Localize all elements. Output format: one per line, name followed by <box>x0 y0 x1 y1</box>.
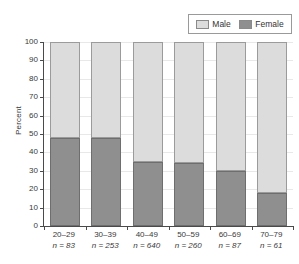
x-axis-labels: 20–29n = 8330–39n = 25340–49n = 64050–59… <box>43 229 292 251</box>
y-axis-tick-label: 20 <box>29 185 38 193</box>
bar-segment-female[interactable] <box>50 138 80 226</box>
bar-segment-female[interactable] <box>133 162 163 226</box>
legend-label-male: Male <box>212 20 230 29</box>
x-axis-tick <box>293 226 294 230</box>
y-axis-tick-label: 10 <box>29 204 38 212</box>
x-axis-category-label: 50–59 <box>168 229 210 240</box>
bar-segment-male[interactable] <box>91 42 121 138</box>
x-axis-sample-size-label: n = 87 <box>209 240 251 251</box>
legend-swatch-male-icon <box>196 20 209 29</box>
bar-segment-male[interactable] <box>133 42 163 162</box>
bar-slot <box>169 42 211 226</box>
y-axis-tick-label: 40 <box>29 148 38 156</box>
x-axis-label-group: 50–59n = 260 <box>168 229 210 251</box>
y-axis-tick-label: 80 <box>29 75 38 83</box>
plot-area: 0102030405060708090100 <box>43 42 293 227</box>
stacked-bar[interactable] <box>133 42 163 226</box>
y-axis-tick-label: 100 <box>25 38 38 46</box>
x-axis-label-group: 60–69n = 87 <box>209 229 251 251</box>
x-axis-label-group: 70–79n = 61 <box>251 229 293 251</box>
bar-segment-female[interactable] <box>257 193 287 226</box>
bar-slot <box>127 42 169 226</box>
legend-item-female: Female <box>239 20 283 29</box>
x-axis-sample-size-label: n = 640 <box>126 240 168 251</box>
x-axis-sample-size-label: n = 253 <box>85 240 127 251</box>
y-axis-label: Percent <box>14 91 23 151</box>
y-axis-tick-label: 60 <box>29 112 38 120</box>
legend-label-female: Female <box>255 20 283 29</box>
x-axis-category-label: 40–49 <box>126 229 168 240</box>
y-axis-tick-label: 90 <box>29 56 38 64</box>
bar-slot <box>44 42 86 226</box>
x-axis-label-group: 20–29n = 83 <box>43 229 85 251</box>
x-axis-category-label: 30–39 <box>85 229 127 240</box>
bar-segment-male[interactable] <box>257 42 287 193</box>
y-axis-tick-label: 0 <box>34 222 38 230</box>
legend-swatch-female-icon <box>239 20 252 29</box>
bar-segment-female[interactable] <box>91 138 121 226</box>
y-axis-tick-label: 70 <box>29 93 38 101</box>
legend-item-male: Male <box>196 20 230 29</box>
x-axis-label-group: 40–49n = 640 <box>126 229 168 251</box>
stacked-bar[interactable] <box>257 42 287 226</box>
bar-segment-male[interactable] <box>174 42 204 163</box>
bar-group <box>44 42 293 226</box>
bar-slot <box>210 42 252 226</box>
bar-segment-male[interactable] <box>50 42 80 138</box>
x-axis-category-label: 20–29 <box>43 229 85 240</box>
x-axis-category-label: 70–79 <box>251 229 293 240</box>
bar-slot <box>86 42 128 226</box>
x-axis-category-label: 60–69 <box>209 229 251 240</box>
x-axis-sample-size-label: n = 61 <box>251 240 293 251</box>
bar-segment-female[interactable] <box>174 163 204 226</box>
stacked-bar[interactable] <box>50 42 80 226</box>
chart-legend: Male Female <box>188 14 292 34</box>
x-axis-label-group: 30–39n = 253 <box>85 229 127 251</box>
bar-segment-female[interactable] <box>216 171 246 226</box>
stacked-bar[interactable] <box>91 42 121 226</box>
bar-slot <box>252 42 294 226</box>
y-axis-tick-label: 30 <box>29 167 38 175</box>
bar-segment-male[interactable] <box>216 42 246 171</box>
stacked-bar-chart: Male Female Percent 01020304050607080901… <box>0 0 299 264</box>
x-axis-sample-size-label: n = 83 <box>43 240 85 251</box>
x-axis-sample-size-label: n = 260 <box>168 240 210 251</box>
stacked-bar[interactable] <box>216 42 246 226</box>
y-axis-tick-label: 50 <box>29 130 38 138</box>
stacked-bar[interactable] <box>174 42 204 226</box>
